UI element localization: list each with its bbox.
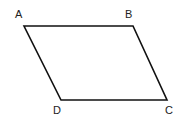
vertex-label-a: A (15, 8, 23, 20)
vertex-label-d: D (53, 104, 61, 116)
vertex-label-c: C (165, 104, 173, 116)
parallelogram-diagram: A B C D (0, 0, 182, 117)
parallelogram-abcd (24, 26, 167, 100)
vertex-label-b: B (125, 8, 132, 20)
